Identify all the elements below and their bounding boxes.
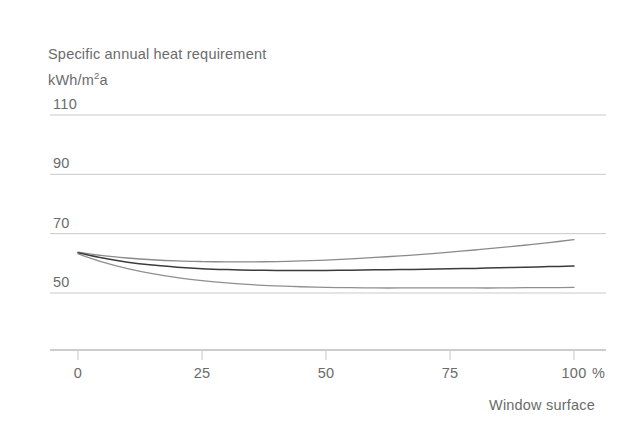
data-curve-upper-curve: [78, 240, 574, 262]
x-axis-tick-label: 75: [442, 365, 459, 381]
x-axis-tick-label: 100: [561, 365, 586, 381]
x-axis-unit: %: [592, 365, 605, 381]
data-curve-middle-curve: [78, 253, 574, 271]
y-axis-tick-label: 110: [53, 96, 77, 112]
y-axis-tick-label: 90: [53, 155, 70, 171]
gridline-group: [50, 115, 606, 293]
chart-container: Specific annual heat requirement kWh/m2a…: [0, 0, 635, 441]
x-axis-tick-label: 50: [318, 365, 335, 381]
data-curve-group: [78, 240, 574, 288]
y-axis-tick-label: 70: [53, 215, 70, 231]
y-axis-tick-label: 50: [53, 274, 70, 290]
x-axis-tick-label: 25: [194, 365, 211, 381]
x-axis-title: Window surface: [489, 397, 595, 413]
x-axis-group: [50, 350, 606, 360]
x-axis-tick-label: 0: [74, 365, 82, 381]
